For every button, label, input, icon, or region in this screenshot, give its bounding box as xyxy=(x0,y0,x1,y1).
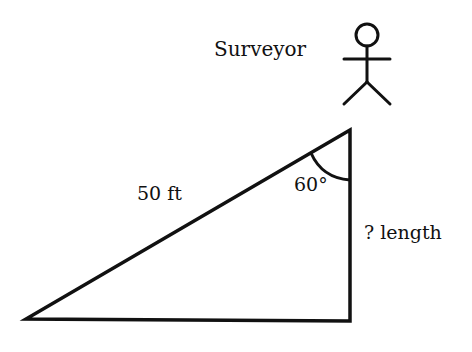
figure-left-leg xyxy=(344,82,367,104)
right-triangle xyxy=(26,130,350,321)
unknown-side-label: ? length xyxy=(364,221,442,243)
diagram-canvas: Surveyor 50 ft 60° ? length xyxy=(0,0,472,352)
figure-head xyxy=(356,24,378,46)
figure-right-leg xyxy=(367,82,390,104)
angle-label: 60° xyxy=(294,173,328,195)
surveyor-label: Surveyor xyxy=(214,37,307,61)
hypotenuse-label: 50 ft xyxy=(137,182,182,204)
surveyor-figure-icon xyxy=(344,24,390,104)
